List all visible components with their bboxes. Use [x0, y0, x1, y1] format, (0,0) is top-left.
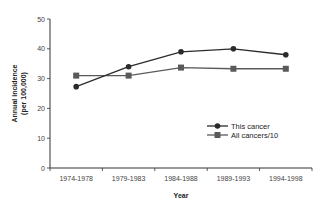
y-tick-label: 0: [41, 165, 45, 172]
square-marker: [126, 73, 132, 79]
y-tick-label: 10: [37, 135, 45, 142]
y-axis-title: Annual incidence(per 100,000): [11, 64, 28, 122]
circle-marker: [178, 49, 184, 55]
y-tick-label: 50: [37, 16, 45, 23]
legend-label: All cancers/10: [231, 131, 278, 140]
legend: This cancerAll cancers/10: [207, 122, 278, 140]
y-tick-label: 30: [37, 75, 45, 82]
x-tick-label: 1994-1998: [269, 175, 303, 182]
line-chart: 01020304050 1974-19781979-19831984-19881…: [0, 0, 329, 212]
circle-marker: [283, 52, 289, 58]
series-all-cancers-10: [73, 65, 289, 79]
x-tick-label: 1974-1978: [59, 175, 93, 182]
y-tick-label: 20: [37, 105, 45, 112]
square-marker: [73, 73, 79, 79]
square-marker: [283, 66, 289, 72]
x-axis-title: Year: [174, 192, 189, 199]
y-tick-label: 40: [37, 45, 45, 52]
x-axis: 1974-19781979-19831984-19881989-19931994…: [50, 168, 312, 182]
square-marker: [178, 65, 184, 71]
legend-label: This cancer: [231, 122, 270, 131]
x-tick-label: 1984-1988: [164, 175, 198, 182]
circle-marker: [126, 64, 132, 70]
circle-marker: [231, 46, 237, 52]
legend-item: This cancer: [207, 122, 270, 131]
square-marker: [230, 66, 236, 72]
circle-marker: [73, 84, 79, 90]
circle-marker: [215, 123, 221, 129]
x-tick-label: 1979-1983: [112, 175, 146, 182]
square-marker: [215, 132, 221, 138]
x-tick-label: 1989-1993: [217, 175, 251, 182]
legend-item: All cancers/10: [207, 131, 278, 140]
y-axis: 01020304050: [37, 16, 50, 172]
series-layer: [73, 46, 289, 89]
